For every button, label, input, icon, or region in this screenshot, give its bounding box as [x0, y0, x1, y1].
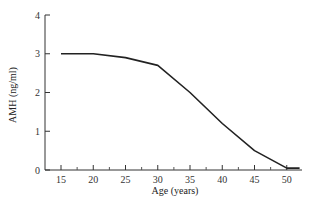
- y-ticks: 01234: [35, 10, 50, 176]
- amh-line: [61, 54, 300, 168]
- y-tick-label: 2: [35, 87, 40, 98]
- x-tick-label: 30: [153, 174, 163, 185]
- x-tick-label: 35: [185, 174, 195, 185]
- x-tick-label: 45: [250, 174, 260, 185]
- amh-age-chart: 01234 1520253035404550 Age (years) AMH (…: [0, 0, 310, 212]
- x-tick-label: 20: [88, 174, 98, 185]
- y-tick-label: 4: [35, 10, 40, 21]
- x-axis-title: Age (years): [152, 185, 199, 197]
- y-tick-label: 0: [35, 165, 40, 176]
- x-tick-label: 15: [56, 174, 66, 185]
- y-tick-label: 1: [35, 126, 40, 137]
- x-tick-label: 50: [282, 174, 292, 185]
- x-tick-label: 40: [217, 174, 227, 185]
- y-tick-label: 3: [35, 48, 40, 59]
- y-axis-title: AMH (ng/ml): [7, 67, 19, 123]
- x-tick-label: 25: [121, 174, 131, 185]
